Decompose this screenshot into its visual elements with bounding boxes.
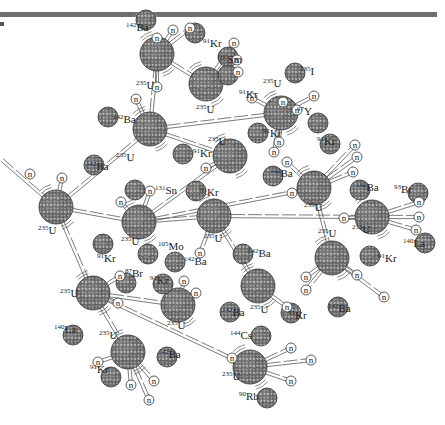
neutron: n (348, 167, 358, 177)
svg-text:n: n (417, 197, 422, 207)
svg-text:n: n (204, 163, 209, 173)
svg-text:n: n (351, 167, 356, 177)
svg-text:n: n (116, 298, 121, 308)
svg-text:n: n (194, 288, 199, 298)
svg-text:n: n (182, 276, 187, 286)
uranium-235-nucleus (297, 171, 331, 205)
svg-text:n: n (304, 272, 309, 282)
fragment-nucleus-kr (93, 234, 113, 254)
isotope-label: 140La (403, 237, 425, 249)
fragment-nucleus-ba (165, 252, 185, 272)
isotope-label: 91Kr (97, 252, 116, 264)
neutron: n (301, 272, 311, 282)
neutron: n (282, 157, 292, 167)
fragment-nucleus-rb (257, 388, 277, 408)
svg-text:n: n (171, 25, 176, 35)
neutron: n (411, 225, 421, 235)
svg-text:n: n (272, 147, 277, 157)
svg-text:n: n (232, 38, 237, 48)
isotope-label: 235U (263, 77, 282, 89)
neutron: n (301, 285, 311, 295)
isotope-label: 140La (54, 323, 76, 335)
svg-text:n: n (118, 271, 123, 281)
neutron: n (227, 353, 237, 363)
svg-text:n: n (285, 157, 290, 167)
svg-text:n: n (289, 343, 294, 353)
neutron: n (229, 38, 239, 48)
isotope-label: 235U (167, 319, 186, 331)
isotope-label: 235U (318, 227, 337, 239)
uranium-235-nucleus (315, 241, 349, 275)
neutron: n (286, 376, 296, 386)
svg-text:n: n (353, 140, 358, 150)
isotope-label: 97Y (297, 105, 312, 117)
neutron: n (350, 140, 360, 150)
svg-text:n: n (134, 94, 139, 104)
isotope-label: 235U (121, 235, 140, 247)
isotope-label: 235U (304, 201, 323, 213)
svg-text:n: n (60, 173, 65, 183)
isotope-label: 235U (136, 79, 155, 91)
neutron: n (269, 147, 279, 157)
svg-text:n: n (417, 212, 422, 222)
isotope-label: 90Rb (239, 390, 259, 402)
isotope-label: 235U (116, 151, 135, 163)
neutron: n (201, 163, 211, 173)
svg-text:n: n (382, 292, 387, 302)
isotope-label: 91Kr (203, 37, 222, 49)
svg-text:n: n (414, 225, 419, 235)
svg-text:n: n (236, 67, 241, 77)
svg-text:n: n (119, 197, 124, 207)
uranium-235-nucleus (197, 199, 231, 233)
neutron: n (352, 152, 362, 162)
isotope-label: 235U (222, 370, 241, 382)
svg-text:n: n (147, 395, 152, 405)
svg-text:n: n (309, 355, 314, 365)
isotope-label: 91Kr (239, 88, 258, 100)
svg-text:n: n (129, 380, 134, 390)
fragment-nucleus-kr (360, 246, 380, 266)
uranium-235-nucleus (133, 112, 167, 146)
neutron: n (149, 376, 159, 386)
svg-text:n: n (290, 188, 295, 198)
uranium-235-nucleus (122, 205, 156, 239)
svg-text:n: n (289, 376, 294, 386)
isotope-label: 93Br (394, 183, 412, 195)
isotope-label: 235U (352, 223, 371, 235)
neutron: n (145, 186, 155, 196)
uranium-235-nucleus (39, 190, 73, 224)
svg-text:n: n (312, 91, 317, 101)
isotope-label: 235U (204, 232, 223, 244)
fragment-nucleus-cs (251, 326, 271, 346)
uranium-235-nucleus (76, 276, 110, 310)
neutron: n (306, 355, 316, 365)
svg-text:n: n (281, 97, 286, 107)
fission-chain-diagram: nnnnnnnnnnnnnnnnnnnnnnnnnnnnnnnnnnnnnnnn… (0, 0, 445, 425)
isotope-label: 144Cs (230, 329, 252, 341)
isotope-label: 235U (196, 103, 215, 115)
svg-text:n: n (342, 213, 347, 223)
svg-text:n: n (155, 33, 160, 43)
isotope-label: 105Mo (158, 240, 184, 252)
isotope-label: 235U (60, 287, 79, 299)
svg-text:n: n (148, 186, 153, 196)
svg-text:n: n (188, 23, 193, 33)
neutron: n (414, 212, 424, 222)
fragment-nucleus-mo (138, 244, 158, 264)
svg-text:n: n (155, 82, 160, 92)
isotope-label: 131Sn (155, 184, 178, 196)
uranium-235-nucleus (189, 67, 223, 101)
neutron: n (233, 67, 243, 77)
neutron: n (144, 395, 154, 405)
neutron: n (278, 97, 288, 107)
neutron: n (131, 94, 141, 104)
isotope-label: 142Ba (126, 21, 149, 33)
fragment-nucleus-kr (173, 144, 193, 164)
neutron: n (115, 271, 125, 281)
svg-text:n: n (304, 285, 309, 295)
incoming-neutron: n (25, 169, 35, 179)
neutron: n (379, 292, 389, 302)
svg-text:n: n (355, 152, 360, 162)
svg-text:n: n (152, 376, 157, 386)
neutron: n (152, 33, 162, 43)
